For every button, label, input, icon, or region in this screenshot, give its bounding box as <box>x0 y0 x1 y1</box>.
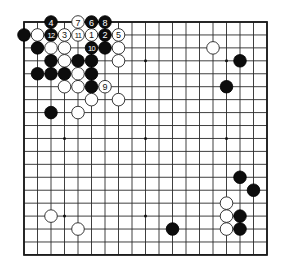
black-stone-icon <box>247 184 260 197</box>
white-stone-icon <box>58 42 71 55</box>
star-point <box>144 59 147 62</box>
star-point <box>63 215 66 218</box>
black-stone-icon <box>31 42 44 55</box>
stone-white <box>72 67 85 80</box>
white-stone-icon <box>112 55 125 68</box>
move-number-label: 12 <box>47 31 55 40</box>
stone-white: 7 <box>72 16 85 29</box>
stone-white <box>45 210 58 223</box>
stone-black <box>234 223 247 236</box>
move-number-label: 2 <box>102 30 107 40</box>
stone-black <box>85 80 98 93</box>
black-stone-icon <box>18 29 31 42</box>
white-stone-icon <box>112 42 125 55</box>
go-board: 476812311125109 <box>0 0 286 270</box>
stone-white: 11 <box>72 29 85 42</box>
stone-white <box>72 80 85 93</box>
black-stone-icon <box>166 223 179 236</box>
move-number-label: 5 <box>116 30 121 40</box>
white-stone-icon <box>31 29 44 42</box>
black-stone-icon <box>58 67 71 80</box>
black-stone-icon <box>234 171 247 184</box>
stone-white <box>112 42 125 55</box>
white-stone-icon <box>220 223 233 236</box>
black-stone-icon <box>45 67 58 80</box>
move-number-label: 9 <box>102 82 107 92</box>
star-point <box>225 59 228 62</box>
move-number-label: 11 <box>75 31 82 40</box>
stone-black: 6 <box>85 16 98 29</box>
stone-white <box>112 55 125 68</box>
move-number-label: 8 <box>102 18 107 28</box>
stone-black <box>85 55 98 68</box>
stone-white: 9 <box>99 80 112 93</box>
white-stone-icon <box>72 223 85 236</box>
stone-black: 4 <box>45 16 58 29</box>
stone-black <box>234 55 247 68</box>
black-stone-icon <box>99 42 112 55</box>
star-point <box>225 137 228 140</box>
star-point <box>63 137 66 140</box>
stone-black <box>45 67 58 80</box>
white-stone-icon <box>112 93 125 106</box>
move-number-label: 10 <box>88 44 96 53</box>
white-stone-icon <box>45 42 58 55</box>
stone-white <box>58 80 71 93</box>
white-stone-icon <box>220 197 233 210</box>
stone-black <box>166 223 179 236</box>
stone-black <box>220 80 233 93</box>
stone-white <box>112 93 125 106</box>
stone-black: 2 <box>99 29 112 42</box>
move-number-label: 7 <box>75 18 80 28</box>
stone-black: 10 <box>85 42 98 55</box>
stone-black <box>31 42 44 55</box>
stone-white <box>220 197 233 210</box>
white-stone-icon <box>85 93 98 106</box>
white-stone-icon <box>58 80 71 93</box>
stone-black <box>31 67 44 80</box>
stone-black <box>58 67 71 80</box>
white-stone-icon <box>207 42 220 55</box>
stone-white: 1 <box>85 29 98 42</box>
stone-white <box>220 210 233 223</box>
stone-black <box>18 29 31 42</box>
stone-white <box>72 223 85 236</box>
stone-white <box>58 42 71 55</box>
stone-white <box>72 106 85 119</box>
stone-white <box>45 42 58 55</box>
stone-white <box>31 29 44 42</box>
black-stone-icon <box>85 55 98 68</box>
stone-white <box>58 55 71 68</box>
white-stone-icon <box>220 210 233 223</box>
black-stone-icon <box>45 106 58 119</box>
stone-white <box>207 42 220 55</box>
black-stone-icon <box>31 67 44 80</box>
stone-white <box>85 93 98 106</box>
black-stone-icon <box>234 223 247 236</box>
stone-black <box>45 106 58 119</box>
white-stone-icon <box>58 55 71 68</box>
white-stone-icon <box>72 67 85 80</box>
stone-black <box>234 171 247 184</box>
stone-black: 12 <box>45 29 58 42</box>
white-stone-icon <box>45 210 58 223</box>
move-number-label: 3 <box>62 30 67 40</box>
stone-white: 5 <box>112 29 125 42</box>
stone-black: 8 <box>99 16 112 29</box>
black-stone-icon <box>220 80 233 93</box>
star-point <box>144 137 147 140</box>
stone-black <box>99 42 112 55</box>
black-stone-icon <box>72 55 85 68</box>
black-stone-icon <box>234 55 247 68</box>
black-stone-icon <box>85 67 98 80</box>
move-number-label: 6 <box>89 18 94 28</box>
stone-black <box>234 210 247 223</box>
white-stone-icon <box>72 80 85 93</box>
black-stone-icon <box>45 55 58 68</box>
white-stone-icon <box>72 106 85 119</box>
stone-black <box>85 67 98 80</box>
stone-black <box>247 184 260 197</box>
stone-white: 3 <box>58 29 71 42</box>
move-number-label: 4 <box>48 18 53 28</box>
stone-white <box>220 223 233 236</box>
